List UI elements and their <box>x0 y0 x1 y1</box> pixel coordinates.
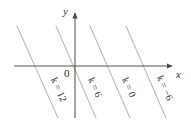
parallel-line-group <box>17 26 166 118</box>
y-axis-label: y <box>63 6 68 17</box>
origin-label: 0 <box>64 68 70 79</box>
figure-canvas <box>0 0 191 128</box>
coordinate-plane-figure: y x 0 k = 12 k = 6 k = 0 k = −6 <box>0 0 191 128</box>
line-k-minus-6 <box>126 26 166 118</box>
line-k-0 <box>90 26 130 118</box>
line-k-6 <box>56 26 96 118</box>
x-axis-label: x <box>176 69 181 80</box>
line-k-12 <box>17 26 58 118</box>
